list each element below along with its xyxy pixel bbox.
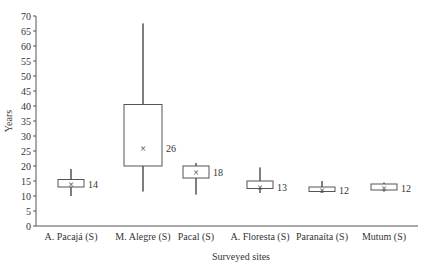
y-tick-label: 30 [21, 131, 31, 142]
y-tick-label: 0 [26, 221, 31, 232]
y-tick-label: 25 [21, 146, 31, 157]
y-tick-label: 35 [21, 116, 31, 127]
iqr-box [124, 105, 162, 167]
x-category-label: A. Floresta (S) [230, 231, 289, 243]
x-category-label: Paranaíta (S) [296, 231, 348, 243]
mean-marker-icon: × [140, 143, 146, 154]
mean-value-label: 18 [213, 167, 223, 178]
x-category-label: M. Alegre (S) [115, 231, 170, 243]
mean-marker-icon: × [68, 179, 74, 190]
mean-marker-icon: × [193, 167, 199, 178]
mean-value-label: 12 [339, 185, 349, 196]
y-tick-label: 20 [21, 161, 31, 172]
y-tick-label: 55 [21, 56, 31, 67]
y-axis-title: Years [3, 110, 14, 132]
y-tick-label: 10 [21, 191, 31, 202]
mean-marker-icon: × [257, 182, 263, 193]
y-tick-label: 50 [21, 71, 31, 82]
y-tick-label: 5 [26, 206, 31, 217]
box-plot-chart: 0510152025303540455055606570YearsSurveye… [0, 0, 432, 266]
y-tick-label: 60 [21, 41, 31, 52]
mean-value-label: 26 [166, 143, 176, 154]
mean-value-label: 14 [88, 179, 98, 190]
x-category-label: A. Pacajá (S) [44, 231, 97, 243]
x-category-label: Pacal (S) [178, 231, 214, 243]
x-axis-title: Surveyed sites [212, 251, 270, 262]
mean-marker-icon: × [381, 183, 387, 194]
x-category-label: Mutum (S) [362, 231, 406, 243]
y-tick-label: 15 [21, 176, 31, 187]
y-tick-label: 65 [21, 26, 31, 37]
y-tick-label: 45 [21, 86, 31, 97]
y-tick-label: 40 [21, 101, 31, 112]
mean-value-label: 13 [277, 182, 287, 193]
mean-marker-icon: × [319, 185, 325, 196]
mean-value-label: 12 [401, 183, 411, 194]
y-tick-label: 70 [21, 11, 31, 22]
